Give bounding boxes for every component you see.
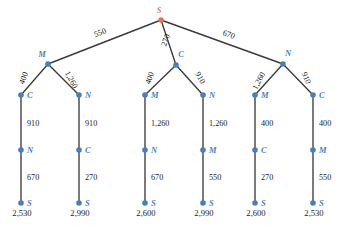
node-label-l1-C: C (178, 49, 184, 59)
edge-label-col1-l3: 670 (27, 173, 39, 182)
leaf-total-col2: 2,990 (70, 208, 89, 218)
edge-label-col2-l3: 270 (85, 173, 97, 182)
node-label-leaf-col1: S (27, 198, 32, 208)
leaf-nodes-group[interactable]: S S S S S S (18, 198, 324, 208)
level2-edge-labels-group: 910 910 1,260 1,260 400 400 (27, 119, 331, 128)
edge-label-C-M: 400 (143, 71, 156, 86)
node-label-l2-col3: M (150, 90, 159, 100)
edge-label-col6-l2: 400 (319, 119, 331, 128)
node-dot-l2-col3[interactable] (142, 92, 148, 98)
node-label-l3-col2: C (85, 145, 91, 155)
edge-label-col5-l2: 400 (261, 119, 273, 128)
node-dot-l3-col2[interactable] (76, 147, 82, 153)
node-dot-l2-col2[interactable] (76, 92, 82, 98)
edge-label-C-N: 910 (193, 70, 207, 85)
node-label-l1-N: N (284, 48, 292, 58)
node-dot-l3-col6[interactable] (310, 147, 316, 153)
level3-nodes-group[interactable]: N C N M C M (18, 145, 327, 155)
node-label-leaf-col4: S (209, 198, 214, 208)
level2-nodes-group[interactable]: C N M N M C (18, 90, 325, 100)
edge-label-M-N: 1,260 (63, 70, 80, 90)
node-label-l3-col3: N (150, 145, 158, 155)
node-dot-l1-N[interactable] (280, 61, 286, 67)
edge-label-col6-l3: 550 (319, 173, 331, 182)
node-dot-leaf-col4[interactable] (200, 200, 206, 206)
leaf-totals-group: 2,530 2,990 2,600 2,990 2,600 2,530 (12, 208, 323, 218)
node-label-l2-col1: C (27, 90, 33, 100)
edge-label-N-M: 1,260 (250, 71, 267, 91)
edge-label-col5-l3: 270 (261, 173, 273, 182)
leaf-total-col3: 2,600 (136, 208, 155, 218)
level1-edges-group (21, 64, 313, 95)
leaf-total-col1: 2,530 (12, 208, 31, 218)
leaf-total-col5: 2,600 (246, 208, 265, 218)
decision-tree-svg: 550 270 670 400 1,260 400 910 1,260 910 … (0, 0, 347, 233)
edge-label-M-C: 400 (17, 71, 30, 86)
node-dot-l1-C[interactable] (173, 62, 179, 68)
node-label-l3-col5: C (261, 145, 267, 155)
node-dot-l2-col4[interactable] (200, 92, 206, 98)
node-dot-leaf-col2[interactable] (76, 200, 82, 206)
level3-edge-labels-group: 670 270 670 550 270 550 (27, 173, 331, 182)
level1-nodes-group[interactable]: M C N (37, 48, 292, 68)
edge-label-col4-l2: 1,260 (209, 119, 227, 128)
edge-label-col2-l2: 910 (85, 119, 97, 128)
node-label-leaf-col2: S (85, 198, 90, 208)
node-dot-l2-col5[interactable] (252, 92, 258, 98)
node-dot-root-S[interactable] (158, 17, 164, 23)
node-dot-l3-col3[interactable] (142, 147, 148, 153)
leaf-total-col4: 2,990 (194, 208, 213, 218)
edge-label-root-N: 670 (222, 28, 236, 40)
edge-label-root-M: 550 (93, 26, 108, 39)
node-label-l2-col2: N (84, 90, 92, 100)
edge-label-col3-l3: 670 (151, 173, 163, 182)
node-dot-leaf-col1[interactable] (18, 200, 24, 206)
node-label-l3-col1: N (26, 145, 34, 155)
node-label-l3-col6: M (318, 145, 327, 155)
node-dot-l3-col5[interactable] (252, 147, 258, 153)
leaf-total-col6: 2,530 (304, 208, 323, 218)
node-label-l2-col4: N (208, 90, 216, 100)
node-label-root-S: S (157, 5, 162, 15)
node-dot-l3-col1[interactable] (18, 147, 24, 153)
node-dot-leaf-col5[interactable] (252, 200, 258, 206)
node-label-leaf-col6: S (319, 198, 324, 208)
node-dot-leaf-col6[interactable] (310, 200, 316, 206)
node-dot-l3-col4[interactable] (200, 147, 206, 153)
edge-root-to-M (48, 20, 161, 64)
node-label-l2-col6: C (319, 90, 325, 100)
edge-label-col4-l3: 550 (209, 173, 221, 182)
root-node-group[interactable]: S (157, 5, 164, 23)
node-label-l1-M: M (37, 49, 46, 59)
edge-label-col1-l2: 910 (27, 119, 39, 128)
edge-label-col3-l2: 1,260 (151, 119, 169, 128)
node-dot-leaf-col3[interactable] (142, 200, 148, 206)
node-label-l2-col5: M (260, 90, 269, 100)
node-dot-l1-M[interactable] (45, 61, 51, 67)
node-dot-l2-col6[interactable] (310, 92, 316, 98)
node-label-leaf-col3: S (151, 198, 156, 208)
node-label-l3-col4: M (208, 145, 217, 155)
node-label-leaf-col5: S (261, 198, 266, 208)
tree-diagram-canvas: 550 270 670 400 1,260 400 910 1,260 910 … (0, 0, 347, 233)
node-dot-l2-col1[interactable] (18, 92, 24, 98)
